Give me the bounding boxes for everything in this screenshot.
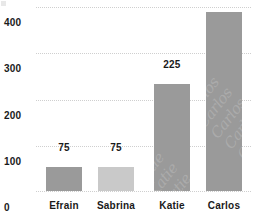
gridline-0 [36, 191, 251, 192]
bar-watermark-katie: Katie Katie Katie Katie Katie Katie Kati… [154, 84, 190, 191]
y-tick-label-400: 400 [4, 17, 36, 28]
bar-watermark-carlos: Carlos Carlos Carlos Carlos Carlos Carlo… [206, 12, 242, 191]
corner-artifact [1, 1, 6, 6]
bar-watermark-efrain: Efrain Efrain Efrain Efrain Efrain Efrai… [46, 167, 82, 191]
bar-carlos[interactable]: Carlos Carlos Carlos Carlos Carlos Carlo… [206, 12, 242, 191]
bar-slot-sabrina: 75 Sabrina Sabrina Sabrina Sabrina Sabri… [90, 0, 142, 191]
y-tick-label-200: 200 [4, 110, 36, 121]
bar-slot-carlos: 375 Carlos Carlos Carlos Carlos Carlos C… [198, 0, 250, 191]
bar-value-label-sabrina: 75 [90, 142, 142, 153]
x-tick-label-katie: Katie [146, 200, 198, 212]
x-tick-label-carlos: Carlos [198, 200, 250, 212]
category-axis: Efrain Sabrina Katie Carlos [36, 200, 251, 216]
bar-efrain[interactable]: Efrain Efrain Efrain Efrain Efrain Efrai… [46, 167, 82, 191]
y-tick-label-100: 100 [4, 156, 36, 167]
bar-chart: 400 300 200 100 0 75 Efrain Efrain Efrai… [0, 0, 253, 223]
plot-area: 75 Efrain Efrain Efrain Efrain Efrain Ef… [36, 0, 251, 191]
bar-katie[interactable]: Katie Katie Katie Katie Katie Katie Kati… [154, 84, 190, 191]
bar-value-label-efrain: 75 [38, 142, 90, 153]
bar-slot-efrain: 75 Efrain Efrain Efrain Efrain Efrain Ef… [38, 0, 90, 191]
x-tick-label-sabrina: Sabrina [90, 200, 142, 212]
bar-slot-katie: 225 Katie Katie Katie Katie Katie Katie … [146, 0, 198, 191]
bar-watermark-sabrina: Sabrina Sabrina Sabrina Sabrina Sabrina … [98, 167, 134, 191]
x-tick-label-efrain: Efrain [38, 200, 90, 212]
bar-sabrina[interactable]: Sabrina Sabrina Sabrina Sabrina Sabrina … [98, 167, 134, 191]
y-tick-label-300: 300 [4, 63, 36, 74]
y-tick-label-0: 0 [4, 202, 36, 213]
bar-value-label-katie: 225 [146, 59, 198, 70]
